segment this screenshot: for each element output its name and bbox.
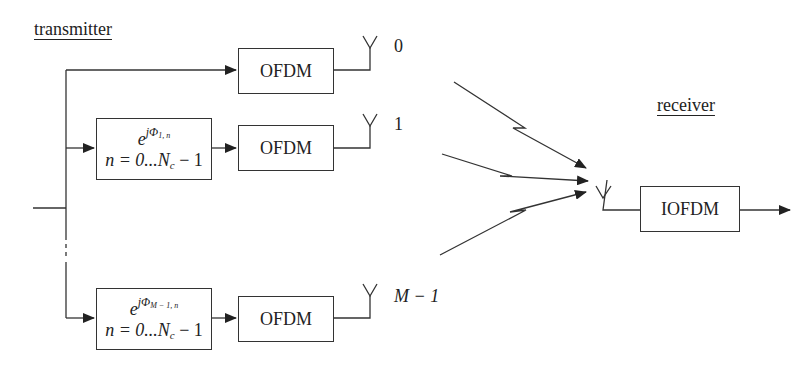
antenna-label-0: 0 (394, 36, 403, 57)
phase-block-1: ejΦ1, n n = 0...Nc − 1 (96, 118, 212, 180)
phase-range-m-1: n = 0...Nc − 1 (105, 320, 203, 342)
antenna-label-1: 1 (394, 114, 403, 135)
antenna-label-m-1: M − 1 (394, 286, 439, 307)
transmitter-label: transmitter (34, 20, 112, 38)
iofdm-block: IOFDM (640, 186, 740, 232)
ofdm-label: OFDM (260, 309, 312, 330)
ofdm-label: OFDM (260, 138, 312, 159)
phase-expression-1: ejΦ1, n (138, 126, 170, 150)
phase-block-m-1: ejΦM − 1, n n = 0...Nc − 1 (96, 288, 212, 350)
phase-range-1: n = 0...Nc − 1 (105, 150, 203, 172)
ofdm-block-1: OFDM (238, 125, 334, 171)
iofdm-label: IOFDM (661, 199, 719, 220)
ofdm-block-0: OFDM (238, 48, 334, 94)
receiver-label: receiver (657, 96, 715, 114)
ofdm-label: OFDM (260, 61, 312, 82)
phase-expression-m-1: ejΦM − 1, n (130, 296, 179, 320)
ofdm-block-m-1: OFDM (238, 296, 334, 342)
